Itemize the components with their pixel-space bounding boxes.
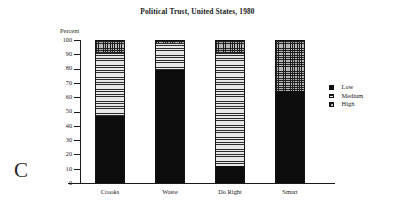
bar-segment-medium [156,43,184,70]
panel-letter: C [14,158,28,183]
y-axis-title: Percent [60,27,79,34]
bar-segment-high [216,40,244,53]
y-axis-tick-label: 60 [52,94,72,101]
y-axis-tick-label: 20 [52,151,72,158]
y-axis-tick-label: 90 [52,51,72,58]
y-axis-tick-label: 50 [52,108,72,115]
y-axis-tick-label-text: 0 [52,180,72,186]
y-axis-tick-label: 10 [52,166,72,173]
y-axis-tick-label: 70 [52,80,72,87]
y-axis-tick-label-text: 30 [52,137,72,143]
legend-item-medium: Medium [329,92,363,101]
y-axis-tick-label-text: 60 [52,94,72,100]
y-axis-tick-label-text: 90 [52,51,72,57]
legend-item-label: Low [342,84,354,90]
y-axis-tick-label: 30 [52,137,72,144]
y-axis-tick-label: 100 [52,37,72,44]
bar-segment-low [156,70,184,183]
x-axis-category-label: Crooks [80,188,140,195]
chart-legend: LowMediumHigh [329,83,363,109]
swatch-medium-icon [329,94,334,99]
x-axis-category-label: Smart [260,188,320,195]
bar-segment-low [96,116,124,183]
chart-figure: Political Trust, United States, 1980 C P… [0,0,395,212]
y-axis-tick-label-text: 10 [52,166,72,172]
bar-segment-high [96,40,124,53]
bar-segment-low [276,91,304,183]
y-axis-tick-label-text: 70 [52,80,72,86]
stacked-bar [95,40,125,183]
y-axis-tick-label: 40 [52,123,72,130]
y-axis-tick-label: 0 [52,180,72,187]
bar-segment-low [216,166,244,183]
chart-title: Political Trust, United States, 1980 [0,7,395,16]
legend-item-label: High [342,101,355,107]
y-axis-tick-label: 80 [52,65,72,72]
x-axis-category-label: Waste [140,188,200,195]
bar-segment-medium [216,53,244,166]
y-axis-tick-label-text: 20 [52,151,72,157]
swatch-low-icon [329,85,334,90]
y-axis-tick-label-text: 100 [52,37,72,43]
bar-segment-medium [96,53,124,116]
stacked-bar [155,40,185,183]
bar-segment-high [276,40,304,91]
legend-item-high: High [329,100,363,109]
stacked-bar [215,40,245,183]
y-axis-tick [74,183,80,184]
legend-item-label: Medium [342,93,364,99]
y-axis-tick-label-text: 40 [52,123,72,129]
plot-area [80,40,320,183]
x-axis-line [68,183,335,184]
x-axis-category-label: Do Right [200,188,260,195]
legend-item-low: Low [329,83,363,92]
y-axis-tick-label-text: 50 [52,108,72,114]
swatch-high-icon [329,102,334,107]
stacked-bar [275,40,305,183]
y-axis-tick-label-text: 80 [52,65,72,71]
